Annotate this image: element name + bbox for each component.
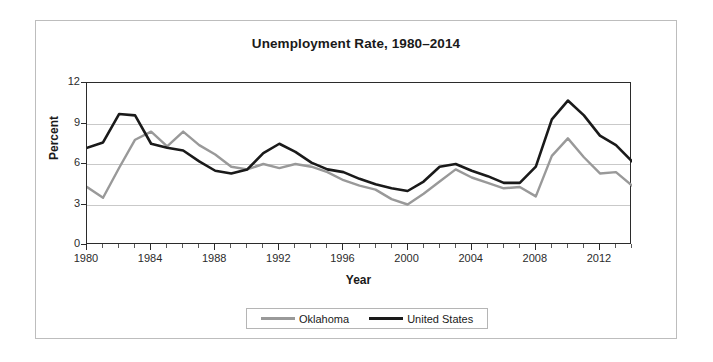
legend-label: United States [407, 313, 473, 325]
x-axis-tick-mark [599, 244, 600, 250]
x-axis-tick-mark [310, 244, 311, 248]
x-axis-tick-mark [198, 244, 199, 248]
x-axis-tick-mark [326, 244, 327, 248]
x-axis-tick-mark [423, 244, 424, 248]
legend-label: Oklahoma [299, 313, 349, 325]
legend-item-oklahoma: Oklahoma [261, 313, 349, 325]
x-axis-tick-mark [567, 244, 568, 248]
x-axis-tick-mark [102, 244, 103, 248]
series-lines [87, 83, 632, 245]
x-axis-tick-label: 1984 [128, 252, 172, 264]
legend-item-united-states: United States [369, 313, 473, 325]
x-axis-tick-mark [134, 244, 135, 248]
x-axis-tick-mark [631, 244, 632, 248]
x-axis-tick-mark [407, 244, 408, 250]
x-axis-tick-label: 2012 [577, 252, 621, 264]
series-line-oklahoma [87, 132, 632, 205]
x-axis-tick-mark [214, 244, 215, 250]
x-axis-tick-mark [150, 244, 151, 250]
y-axis-tick-label: 3 [58, 198, 80, 209]
x-axis-tick-mark [615, 244, 616, 248]
y-axis-tick-labels: 036912 [54, 82, 80, 244]
x-axis-tick-mark [439, 244, 440, 248]
y-axis-tick-label: 12 [58, 76, 80, 87]
x-axis-tick-mark [375, 244, 376, 248]
x-axis-tick-labels: 198019841988199219962000200420082012 [86, 252, 631, 268]
chart-title: Unemployment Rate, 1980–2014 [36, 36, 676, 51]
x-axis-tick-label: 1992 [256, 252, 300, 264]
x-axis-title: Year [86, 273, 631, 287]
x-axis-tick-mark [503, 244, 504, 248]
x-axis-tick-mark [583, 244, 584, 248]
y-axis-tick-label: 9 [58, 117, 80, 128]
x-axis-tick-mark [535, 244, 536, 250]
x-axis-tick-mark [342, 244, 343, 250]
x-axis-tick-mark [359, 244, 360, 248]
x-axis-tick-mark [519, 244, 520, 248]
x-axis-tick-label: 2000 [385, 252, 429, 264]
x-axis-tick-label: 1980 [64, 252, 108, 264]
x-axis-tick-mark [471, 244, 472, 250]
chart-legend: Oklahoma United States [246, 308, 488, 329]
x-axis-tick-mark [118, 244, 119, 248]
x-axis-tick-mark [455, 244, 456, 248]
legend-line-swatch-icon [261, 317, 295, 320]
x-axis-tick-mark [86, 244, 87, 250]
x-axis-tick-mark [262, 244, 263, 248]
x-axis-tick-mark [166, 244, 167, 248]
y-axis-tick-label: 6 [58, 157, 80, 168]
chart-figure-frame: Unemployment Rate, 1980–2014 Percent 036… [35, 20, 677, 339]
x-axis-tick-mark [391, 244, 392, 248]
x-axis-tick-mark [182, 244, 183, 248]
x-axis-tick-mark [278, 244, 279, 250]
x-axis-tick-label: 1988 [192, 252, 236, 264]
x-axis-tick-mark [246, 244, 247, 248]
x-axis-tick-label: 2008 [513, 252, 557, 264]
y-axis-tick-label: 0 [58, 238, 80, 249]
x-axis-tick-mark [551, 244, 552, 248]
x-axis-tick-mark [294, 244, 295, 248]
x-axis-tick-label: 1996 [320, 252, 364, 264]
x-axis-tick-marks [86, 244, 631, 250]
legend-line-swatch-icon [369, 317, 403, 320]
x-axis-tick-label: 2004 [449, 252, 493, 264]
plot-area [86, 82, 631, 244]
x-axis-tick-mark [487, 244, 488, 248]
x-axis-tick-mark [230, 244, 231, 248]
